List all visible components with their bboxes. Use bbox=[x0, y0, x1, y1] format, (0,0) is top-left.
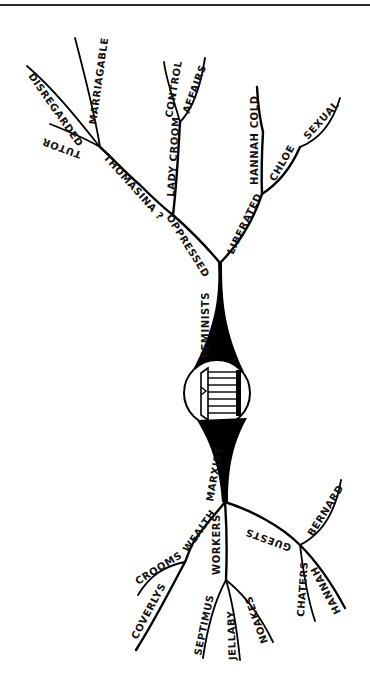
label-noakes: NOAKES bbox=[243, 595, 270, 645]
label-feminists: FEMINISTS bbox=[200, 292, 211, 358]
label-crooms: CROOMS bbox=[133, 549, 184, 586]
label-liberated: LIBERATED bbox=[225, 191, 264, 256]
label-disregarded: DISREGARDED bbox=[26, 71, 85, 149]
header-rule bbox=[0, 4, 370, 6]
mind-map-diagram: FEMINISTS MARXIST OPPRESSED THOMASINA ? … bbox=[0, 0, 370, 684]
mind-map-canvas: FEMINISTS MARXIST OPPRESSED THOMASINA ? … bbox=[0, 0, 370, 684]
label-thomasina: THOMASINA ? bbox=[102, 152, 167, 222]
label-bernard: BERNARD bbox=[305, 483, 345, 538]
label-hannah-cold: HANNAH COLD bbox=[249, 95, 260, 185]
workers-branch bbox=[225, 502, 227, 580]
label-hannah: HANNAH bbox=[308, 565, 342, 617]
label-workers: WORKERS bbox=[211, 514, 222, 575]
label-guests: GUESTS bbox=[244, 527, 293, 554]
label-affairs: AFFAIRS bbox=[181, 63, 209, 115]
label-chaters: CHATERS bbox=[295, 561, 310, 617]
label-septimus: SEPTIMUS bbox=[192, 593, 216, 656]
central-node bbox=[184, 360, 250, 426]
label-marriagable: MARRIAGABLE bbox=[87, 37, 110, 126]
label-sexual: SEXUAL bbox=[301, 99, 341, 142]
label-coverlys: COVERLYS bbox=[129, 581, 168, 641]
label-jellaby: JELLABY bbox=[225, 610, 238, 661]
